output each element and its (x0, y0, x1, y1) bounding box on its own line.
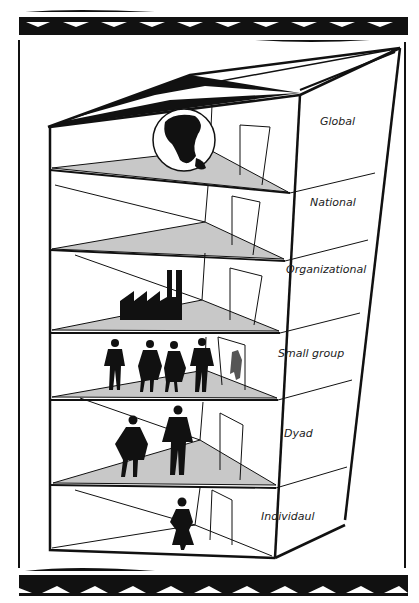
side-dividers (276, 173, 375, 488)
building-diagram (0, 0, 419, 603)
level-label-individual: Individaul (261, 510, 315, 523)
person-icon (170, 498, 194, 551)
level-label-organizational: Organizational (286, 263, 366, 276)
factory-icon (120, 270, 182, 320)
level-label-small-group: Small group (278, 347, 344, 360)
top-border-band (19, 10, 408, 42)
level-label-national: National (310, 196, 356, 209)
globe-icon (153, 109, 215, 171)
level-label-global: Global (320, 115, 355, 128)
bottom-border-band (19, 568, 408, 596)
level-label-dyad: Dyad (284, 427, 313, 440)
